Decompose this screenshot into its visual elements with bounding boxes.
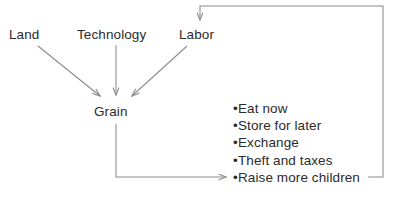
node-label-technology: Technology [77,27,146,42]
connector-grain-to-outcomes [116,124,226,177]
node-label-land: Land [9,27,39,42]
node-label-grain: Grain [94,104,128,119]
list-item: •Exchange [233,134,360,151]
outcomes-list: •Eat now •Store for later •Exchange •The… [233,100,360,186]
list-item-label: Exchange [238,135,299,150]
node-label-labor: Labor [179,27,214,42]
list-item-label: Theft and taxes [238,153,333,168]
list-item-label: Eat now [238,101,287,116]
list-item-label: Raise more children [238,170,360,185]
list-item: •Eat now [233,100,360,117]
list-item: •Theft and taxes [233,152,360,169]
list-item: •Store for later [233,117,360,134]
connector-labor-to-grain [132,46,187,96]
diagram-canvas: Land Technology Labor Grain •Eat now •St… [0,0,404,204]
list-item-label: Store for later [238,118,321,133]
connector-land-to-grain [38,46,100,96]
list-item: •Raise more children [233,169,360,186]
